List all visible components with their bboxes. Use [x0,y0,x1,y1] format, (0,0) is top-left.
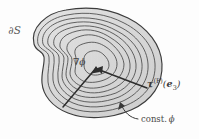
const-text: const. [141,114,167,124]
gradient-label: ∇ϕ [73,58,85,67]
const-level-label: const.ϕ [141,115,175,124]
boundary-label: ∂S [8,25,21,36]
contour-figure: ∂S ∇ϕ τ(P)(e3) const.ϕ [0,0,199,139]
traction-paren-close: ) [177,78,181,89]
traction-superscript: (P) [153,77,162,85]
const-phi-symbol: ϕ [169,114,175,124]
traction-label: τ(P)(e3) [147,78,180,92]
